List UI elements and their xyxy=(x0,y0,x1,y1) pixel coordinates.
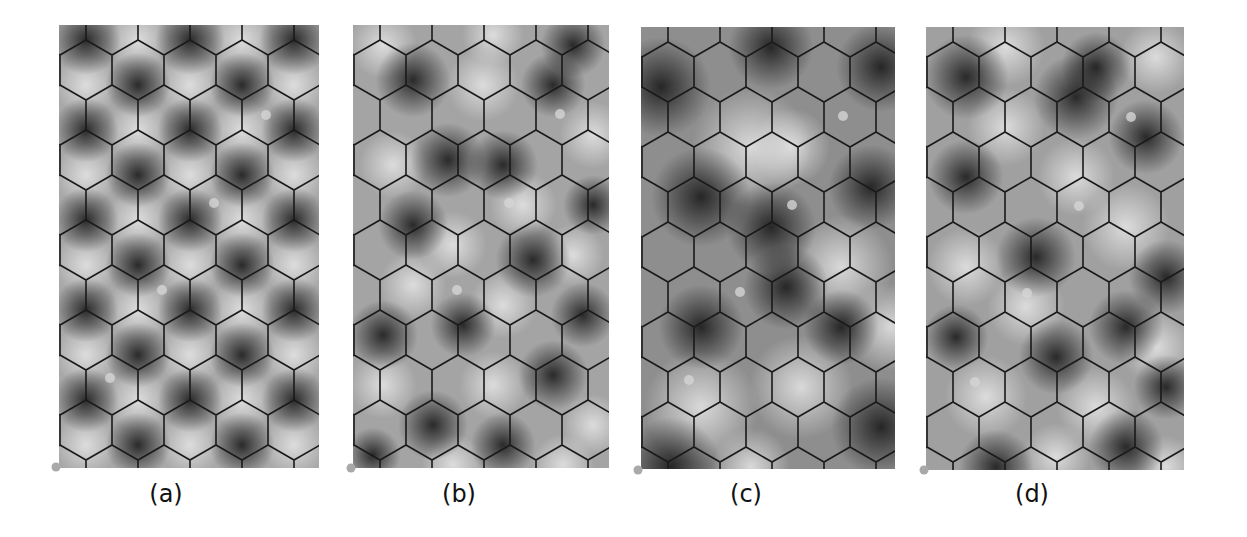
marker-dot xyxy=(209,198,219,208)
caption-b: (b) xyxy=(419,480,499,508)
marker-dot xyxy=(970,377,980,387)
hex-pattern-c xyxy=(641,27,895,469)
panel-c xyxy=(641,27,895,469)
marker-dot xyxy=(261,110,271,120)
marker-dot xyxy=(838,111,848,121)
panel-d xyxy=(926,27,1184,470)
marker-dot xyxy=(452,285,462,295)
panel-a xyxy=(59,25,319,468)
origin-marker xyxy=(52,463,61,472)
marker-dot xyxy=(684,375,694,385)
marker-dot xyxy=(1126,112,1136,122)
caption-d: (d) xyxy=(992,480,1072,508)
marker-dot xyxy=(1022,288,1032,298)
marker-dot xyxy=(105,373,115,383)
marker-dot xyxy=(504,198,514,208)
marker-dot xyxy=(555,109,565,119)
marker-dot xyxy=(1074,201,1084,211)
caption-a: (a) xyxy=(126,480,206,508)
marker-dot xyxy=(157,285,167,295)
hex-pattern-b xyxy=(353,25,609,468)
hex-pattern-a xyxy=(59,25,319,468)
origin-marker xyxy=(920,466,929,475)
origin-marker xyxy=(634,466,643,475)
hex-pattern-d xyxy=(926,27,1184,470)
marker-dot xyxy=(787,200,797,210)
panel-b xyxy=(353,25,609,468)
marker-dot xyxy=(735,287,745,297)
caption-c: (c) xyxy=(706,480,786,508)
origin-marker xyxy=(347,464,356,473)
